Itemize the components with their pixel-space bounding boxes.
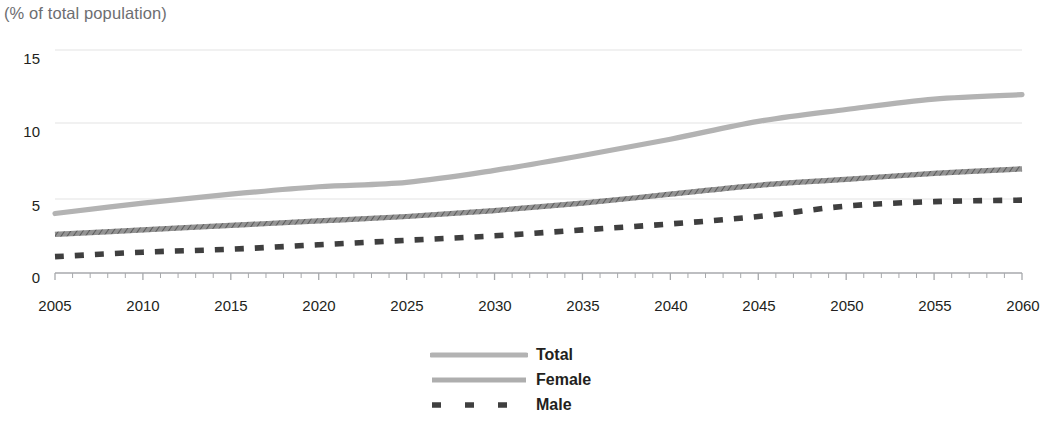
chart-container: (% of total population) 15 10 5 0 2005 2… (0, 0, 1048, 427)
legend-label-male: Male (536, 397, 572, 413)
x-axis-minor-ticks (55, 273, 1022, 280)
legend-swatch-male (430, 392, 528, 417)
plot-area (0, 0, 1048, 330)
legend-item-female[interactable]: Female (430, 367, 591, 392)
legend-label-total: Total (536, 347, 573, 363)
legend-swatch-female (430, 367, 528, 392)
legend-item-total[interactable]: Total (430, 342, 591, 367)
legend-item-male[interactable]: Male (430, 392, 591, 417)
legend-swatch-total (430, 342, 528, 367)
legend-label-female: Female (536, 372, 591, 388)
chart-legend: Total Female (430, 342, 591, 417)
series-line-total (55, 95, 1022, 214)
